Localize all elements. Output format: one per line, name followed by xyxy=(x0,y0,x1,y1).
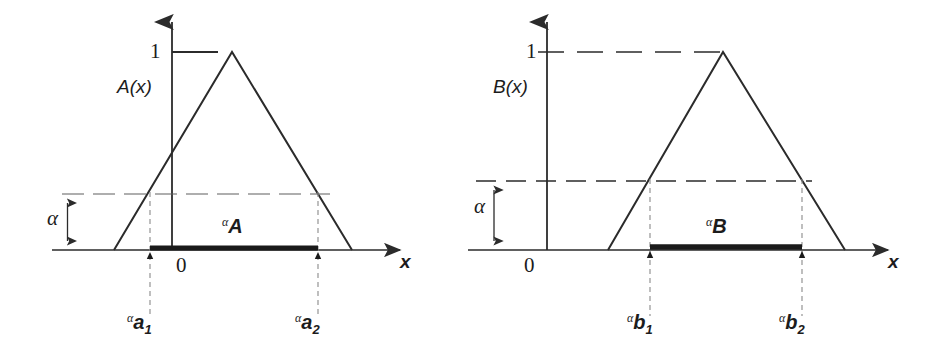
endpoint-tick-a1 xyxy=(147,252,153,259)
alpha-label-right: α xyxy=(474,196,485,217)
alpha-cut-figure: 1 A(x) α αA 0 x αa1 αa2 1 B(x) α αB 0 x … xyxy=(0,0,944,341)
panel-left xyxy=(52,22,400,316)
endpoint-b1-base: b xyxy=(633,311,645,333)
origin-label-left: 0 xyxy=(176,255,187,276)
alpha-cut-set-name-b: B xyxy=(712,215,726,237)
endpoint-tick-a2 xyxy=(315,252,321,259)
alpha-cut-endpoint-label-b2: αb2 xyxy=(779,312,805,336)
endpoint-a2-subscript: 2 xyxy=(312,322,319,337)
endpoint-a2-base: a xyxy=(301,311,312,333)
endpoint-tick-b1 xyxy=(647,251,653,258)
alpha-label-left: α xyxy=(47,208,58,229)
endpoint-a1-subscript: 1 xyxy=(144,322,151,337)
y-axis-one-label-right: 1 xyxy=(526,41,537,62)
endpoint-b2-base: b xyxy=(785,311,797,333)
alpha-cut-set-name-a: A xyxy=(228,215,242,237)
origin-label-right: 0 xyxy=(524,255,535,276)
y-axis-one-label-left: 1 xyxy=(150,41,161,62)
function-label-a: A(x) xyxy=(117,77,152,96)
endpoint-tick-b2 xyxy=(799,251,805,258)
endpoint-b1-subscript: 1 xyxy=(646,322,653,337)
function-label-b: B(x) xyxy=(493,77,528,96)
alpha-cut-endpoint-label-a1: αa1 xyxy=(127,312,152,336)
alpha-cut-endpoint-label-b1: αb1 xyxy=(627,312,653,336)
endpoint-b2-subscript: 2 xyxy=(798,322,805,337)
x-axis-label-right: x xyxy=(888,252,899,271)
alpha-cut-set-label-b: αB xyxy=(706,216,727,236)
figure-canvas xyxy=(0,0,944,341)
x-axis-label-left: x xyxy=(400,252,411,271)
alpha-cut-endpoint-label-a2: αa2 xyxy=(295,312,320,336)
alpha-cut-set-label-a: αA xyxy=(222,216,243,236)
endpoint-a1-base: a xyxy=(133,311,144,333)
